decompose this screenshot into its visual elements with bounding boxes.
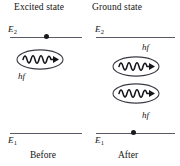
energy-level-label-e2-before: E2 <box>8 24 17 34</box>
stimulated-emission-figure: Excited state Ground state E2 E2 E1 E1 h… <box>0 0 180 166</box>
photon-energy-label-incident: hf <box>18 71 25 81</box>
energy-level-label-e1-after: E1 <box>95 135 104 145</box>
electron-dot-icon-ground <box>131 130 136 135</box>
electron-dot-icon-excited <box>44 34 49 39</box>
level-subscript: 2 <box>14 28 17 35</box>
level-symbol: E <box>8 135 14 145</box>
photon-energy-label-emitted-1: hf <box>142 42 149 52</box>
level-symbol: E <box>95 135 101 145</box>
level-symbol: E <box>8 24 14 34</box>
level-subscript: 1 <box>14 139 17 146</box>
energy-level-label-e1-before: E1 <box>8 135 17 145</box>
photon-wave-packet-icon-emitted-2 <box>112 83 160 104</box>
photon-wave-packet-icon-incident <box>16 49 64 70</box>
level-subscript: 2 <box>101 28 104 35</box>
header-excited-state: Excited state <box>14 2 64 13</box>
photon-energy-label-emitted-2: hf <box>142 110 149 120</box>
header-ground-state: Ground state <box>92 2 142 13</box>
photon-wave-packet-icon-emitted-1 <box>112 56 160 77</box>
energy-level-label-e2-after: E2 <box>95 24 104 34</box>
level-subscript: 1 <box>101 139 104 146</box>
energy-level-line-e1-before <box>10 133 82 134</box>
panel-caption-after: After <box>118 150 138 160</box>
level-symbol: E <box>95 24 101 34</box>
energy-level-line-e2-after <box>96 37 175 38</box>
panel-caption-before: Before <box>30 150 56 160</box>
